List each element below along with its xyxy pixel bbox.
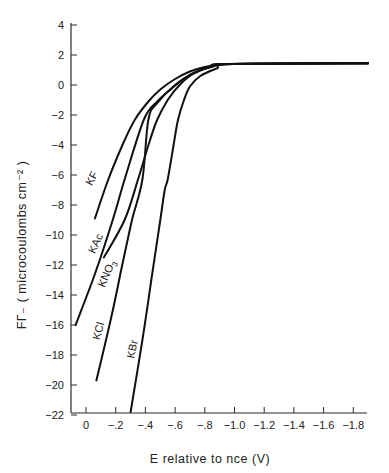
- surface-excess-chart: 420−2−4−6−8−10−12−14−16−18−20−22 0−.2−.4…: [0, 0, 389, 473]
- curve-kno3: [104, 63, 368, 257]
- x-tick-label: −.2: [108, 419, 124, 431]
- y-tick-label: −6: [51, 169, 64, 181]
- x-tick-label: −.8: [197, 419, 213, 431]
- label-kcl: KCl: [90, 321, 106, 341]
- x-axis-title: E relative to nce (V): [150, 452, 270, 466]
- x-ticks: 0−.2−.4−.6−.8−1.0−1.2−1.4−1.6−1.8: [83, 407, 364, 431]
- x-tick-label: −1.4: [283, 419, 305, 431]
- x-tick-label: 0: [83, 419, 89, 431]
- y-tick-label: 2: [58, 49, 64, 61]
- y-tick-label: −8: [51, 199, 64, 211]
- curves: [76, 63, 369, 412]
- label-kbr: KBr: [124, 339, 140, 360]
- y-tick-label: −4: [51, 139, 64, 151]
- label-kf: KF: [83, 169, 100, 187]
- y-tick-label: −16: [45, 319, 64, 331]
- y-axis-title: FΓ₋ ( microcoulombs cm⁻² ): [15, 161, 29, 330]
- series-labels: KFKAcKNO3KClKBr: [83, 169, 140, 360]
- y-tick-label: −14: [45, 289, 64, 301]
- x-tick-label: −1.6: [313, 419, 335, 431]
- x-tick-label: −1.8: [342, 419, 364, 431]
- curve-kcl: [96, 63, 368, 380]
- axes: [71, 23, 367, 413]
- y-tick-label: −2: [51, 109, 64, 121]
- y-tick-label: 4: [58, 19, 64, 31]
- x-tick-label: −.6: [167, 419, 183, 431]
- y-ticks: 420−2−4−6−8−10−12−14−16−18−20−22: [45, 19, 77, 421]
- x-tick-label: −1.0: [224, 419, 246, 431]
- x-tick-label: −1.2: [253, 419, 275, 431]
- y-tick-label: −10: [45, 229, 64, 241]
- y-tick-label: −18: [45, 349, 64, 361]
- y-tick-label: −22: [45, 409, 64, 421]
- y-tick-label: −20: [45, 379, 64, 391]
- curve-kbr: [131, 63, 369, 412]
- curve-kac: [76, 63, 369, 325]
- y-tick-label: −12: [45, 259, 64, 271]
- y-tick-label: 0: [58, 79, 64, 91]
- x-tick-label: −.4: [138, 419, 154, 431]
